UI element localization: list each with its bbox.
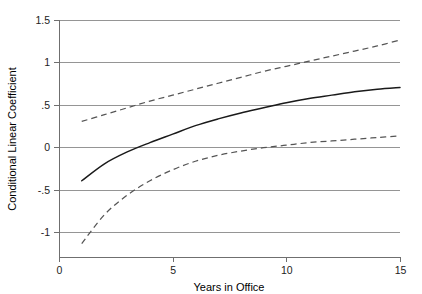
y-tick-label-minus-1: -1	[41, 226, 50, 238]
x-tick-label-5: 5	[170, 264, 176, 276]
series-upper-confidence-bound	[82, 40, 400, 121]
y-axis: 1.5 1 .5 0 -.5 -1	[35, 14, 59, 258]
series-conditional-coefficient	[82, 87, 400, 180]
x-axis-title: Years in Office	[194, 281, 265, 293]
x-tick-label-0: 0	[57, 264, 63, 276]
gridlines	[59, 21, 400, 233]
y-tick-label-1: 1	[44, 56, 50, 68]
series-group	[82, 40, 400, 244]
series-lower-confidence-bound	[82, 136, 400, 244]
y-tick-label-minus-0.5: -.5	[38, 184, 50, 196]
y-tick-label-0.5: .5	[41, 99, 50, 111]
y-tick-label-0: 0	[44, 141, 50, 153]
x-axis: 0 5 10 15	[57, 257, 407, 276]
y-axis-title: Conditional Linear Coefficient	[6, 67, 18, 211]
x-tick-label-10: 10	[281, 264, 293, 276]
chart-figure: 1.5 1 .5 0 -.5 -1 0 5 10 15 Years in Off…	[0, 0, 422, 294]
x-tick-label-15: 15	[395, 264, 407, 276]
line-chart: 1.5 1 .5 0 -.5 -1 0 5 10 15 Years in Off…	[0, 0, 422, 294]
y-tick-label-1.5: 1.5	[35, 14, 50, 26]
